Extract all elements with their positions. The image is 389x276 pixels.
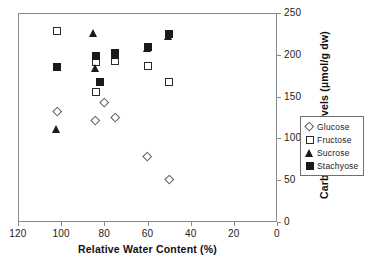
legend-item-stachyose: Stachyose — [304, 159, 359, 172]
y-tick-label: 250 — [284, 7, 301, 19]
x-tick — [104, 222, 105, 226]
y-tick-label: 0 — [284, 216, 290, 228]
data-point-fructose — [53, 27, 61, 35]
data-point-stachyose — [96, 78, 104, 86]
y-tick-label: 200 — [284, 49, 301, 61]
x-tick-label: 40 — [171, 228, 211, 239]
y-tick — [277, 222, 281, 223]
y-tick — [277, 13, 281, 14]
legend-item-label: Stachyose — [317, 161, 359, 171]
x-axis-title: Relative Water Content (%) — [18, 243, 277, 255]
data-point-stachyose — [165, 30, 173, 38]
x-tick — [191, 222, 192, 226]
data-point-fructose — [165, 78, 173, 86]
x-tick-label: 20 — [214, 228, 254, 239]
x-tick — [148, 222, 149, 226]
legend-item-label: Fructose — [317, 135, 352, 145]
legend-item-glucose: Glucose — [304, 120, 359, 133]
y-tick — [277, 138, 281, 139]
x-tick-label: 80 — [84, 228, 124, 239]
x-tick — [18, 222, 19, 226]
data-point-sucrose — [91, 64, 99, 72]
data-point-sucrose — [52, 125, 60, 133]
x-tick — [234, 222, 235, 226]
y-tick-label: 100 — [284, 132, 301, 144]
x-tick-label: 0 — [257, 228, 297, 239]
y-tick — [277, 55, 281, 56]
data-point-stachyose — [144, 43, 152, 51]
y-tick — [277, 97, 281, 98]
chart-legend: GlucoseFructoseSucroseStachyose — [300, 116, 364, 176]
open-diamond-icon — [304, 121, 315, 132]
chart-figure: 120100806040200 050100150200250 Relative… — [0, 0, 389, 276]
filled-triangle-icon — [304, 147, 315, 158]
open-square-icon — [304, 134, 315, 145]
legend-item-label: Glucose — [317, 122, 350, 132]
data-point-sucrose — [89, 29, 97, 37]
x-tick-label: 60 — [128, 228, 168, 239]
data-point-fructose — [92, 88, 100, 96]
y-axis-title-text: Carbohydrate levels (µmol/g dw) — [318, 0, 330, 230]
x-tick-label: 120 — [0, 228, 38, 239]
y-tick-label: 50 — [284, 174, 296, 186]
legend-item-fructose: Fructose — [304, 133, 359, 146]
data-point-fructose — [144, 62, 152, 70]
data-point-stachyose — [53, 63, 61, 71]
x-tick-label: 100 — [41, 228, 81, 239]
data-point-stachyose — [92, 52, 100, 60]
x-tick — [61, 222, 62, 226]
filled-square-icon — [304, 160, 315, 171]
y-tick — [277, 180, 281, 181]
data-point-stachyose — [111, 49, 119, 57]
legend-item-sucrose: Sucrose — [304, 146, 359, 159]
legend-item-label: Sucrose — [317, 148, 350, 158]
y-tick-label: 150 — [284, 91, 301, 103]
